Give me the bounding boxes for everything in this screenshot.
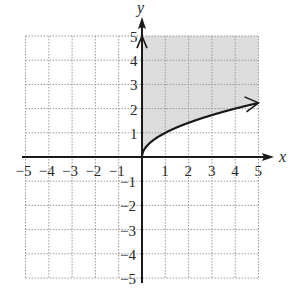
- x-tick-label: −5: [16, 163, 32, 179]
- y-tick-label: 1: [130, 126, 138, 142]
- x-tick-label: 2: [185, 163, 193, 179]
- y-tick-label: −3: [120, 223, 136, 239]
- y-tick-label: 5: [130, 29, 138, 45]
- coordinate-plane: x y −5−4−3−2−11234554321−1−2−3−4−5: [0, 0, 298, 293]
- y-tick-label: −5: [120, 271, 136, 287]
- shaded-region: [142, 36, 259, 157]
- x-tick-label: −3: [62, 163, 78, 179]
- y-tick-label: 4: [130, 53, 138, 69]
- x-tick-label: 5: [255, 163, 263, 179]
- x-tick-label: −2: [85, 163, 101, 179]
- x-axis-label: x: [278, 148, 286, 165]
- x-tick-label: −4: [39, 163, 55, 179]
- shaded-region-fill: [142, 36, 259, 157]
- x-tick-label: 3: [208, 163, 216, 179]
- x-tick-label: 1: [161, 163, 169, 179]
- y-tick-label: −2: [120, 198, 136, 214]
- x-tick-label: 4: [231, 163, 239, 179]
- y-tick-label: 3: [130, 77, 138, 93]
- y-axis-label: y: [135, 0, 145, 17]
- y-tick-label: 2: [130, 102, 138, 118]
- y-tick-label: −4: [120, 247, 136, 263]
- y-tick-label: −1: [120, 174, 136, 190]
